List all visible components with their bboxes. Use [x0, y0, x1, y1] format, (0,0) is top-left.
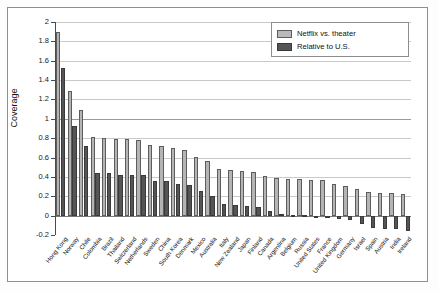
bar-netflix-vs-theater [125, 139, 129, 215]
legend-swatch-icon-dark [277, 43, 292, 51]
bar-relative-to-us [291, 215, 295, 217]
bar-netflix-vs-theater [102, 138, 106, 215]
bar-relative-to-us [360, 216, 364, 225]
bar-netflix-vs-theater [401, 194, 405, 215]
bar-relative-to-us [314, 216, 318, 218]
legend: Netflix vs. theater Relative to U.S. [271, 22, 409, 57]
legend-label: Relative to U.S. [297, 43, 350, 51]
bar-netflix-vs-theater [148, 145, 152, 216]
y-tick [51, 61, 55, 62]
bar-netflix-vs-theater [274, 178, 278, 216]
y-tick-label: -0.2 [36, 231, 49, 239]
bar-relative-to-us [325, 216, 329, 218]
y-tick [51, 177, 55, 178]
bar-relative-to-us [61, 68, 65, 216]
y-tick [51, 80, 55, 81]
y-tick [51, 22, 55, 23]
bar-relative-to-us [164, 181, 168, 216]
y-tick [51, 196, 55, 197]
bar-relative-to-us [268, 211, 272, 216]
bar-netflix-vs-theater [194, 157, 198, 216]
legend-item-relative-to-us: Relative to U.S. [277, 40, 403, 53]
y-axis-title: Coverage [9, 88, 19, 127]
y-tick [51, 216, 55, 217]
y-tick [51, 41, 55, 42]
y-tick-label: 0.2 [39, 193, 49, 201]
y-tick-label: 1.6 [39, 57, 49, 65]
y-axis-line [55, 22, 56, 235]
bar-netflix-vs-theater [171, 148, 175, 216]
y-tick-label: 0.8 [39, 134, 49, 142]
y-tick-label: 1 [45, 115, 49, 123]
bar-relative-to-us [107, 173, 111, 216]
bar-relative-to-us [233, 205, 237, 216]
y-tick [51, 158, 55, 159]
bar-netflix-vs-theater [378, 193, 382, 215]
bar-relative-to-us [279, 214, 283, 216]
bar-relative-to-us [153, 181, 157, 216]
bar-netflix-vs-theater [68, 91, 72, 216]
bar-relative-to-us [176, 184, 180, 216]
bar-relative-to-us [394, 216, 398, 230]
bar-netflix-vs-theater [217, 169, 221, 215]
bar-relative-to-us [210, 196, 214, 215]
bar-relative-to-us [245, 206, 249, 216]
bar-netflix-vs-theater [343, 186, 347, 216]
bar-relative-to-us [130, 175, 134, 216]
bar-netflix-vs-theater [91, 137, 95, 215]
bar-relative-to-us [187, 185, 191, 216]
y-tick [51, 119, 55, 120]
bar-relative-to-us [383, 216, 387, 230]
bar-relative-to-us [72, 126, 76, 216]
bar-relative-to-us [222, 204, 226, 216]
y-tick-label: 0.6 [39, 154, 49, 162]
y-tick-label: 2 [45, 18, 49, 26]
bar-relative-to-us [337, 216, 341, 220]
bar-netflix-vs-theater [297, 179, 301, 216]
bar-netflix-vs-theater [240, 171, 244, 216]
bar-relative-to-us [199, 191, 203, 215]
legend-item-netflix-vs-theater: Netflix vs. theater [277, 27, 403, 40]
bar-netflix-vs-theater [286, 179, 290, 216]
bar-netflix-vs-theater [205, 161, 209, 215]
y-tick-label: 0 [45, 212, 49, 220]
bar-netflix-vs-theater [355, 189, 359, 216]
bar-netflix-vs-theater [309, 180, 313, 216]
bar-netflix-vs-theater [263, 176, 267, 216]
bar-netflix-vs-theater [114, 139, 118, 215]
bar-relative-to-us [256, 207, 260, 216]
x-axis-labels: Hong KongNorwayChileColombiaBrazilThaila… [55, 236, 411, 288]
y-tick-label: 1.4 [39, 76, 49, 84]
legend-label: Netflix vs. theater [297, 30, 356, 38]
y-tick [51, 138, 55, 139]
figure-container: 21.81.61.41.210.80.60.40.20-0.2 Coverage… [0, 0, 439, 293]
bar-relative-to-us [95, 173, 99, 216]
y-tick-label: 1.8 [39, 38, 49, 46]
bar-netflix-vs-theater [159, 146, 163, 216]
bar-relative-to-us [141, 175, 145, 216]
bar-netflix-vs-theater [320, 180, 324, 216]
bar-netflix-vs-theater [136, 140, 140, 216]
bar-relative-to-us [348, 216, 352, 221]
bar-netflix-vs-theater [182, 150, 186, 216]
bar-netflix-vs-theater [251, 172, 255, 216]
bar-netflix-vs-theater [56, 32, 60, 216]
bar-relative-to-us [406, 216, 410, 231]
y-tick-label: 1.2 [39, 96, 49, 104]
legend-swatch-icon-light [277, 30, 292, 38]
bar-relative-to-us [302, 215, 306, 217]
bar-netflix-vs-theater [389, 193, 393, 215]
y-tick [51, 99, 55, 100]
bar-relative-to-us [118, 175, 122, 216]
bar-relative-to-us [84, 146, 88, 216]
bar-netflix-vs-theater [332, 184, 336, 216]
bar-netflix-vs-theater [79, 110, 83, 216]
bar-netflix-vs-theater [228, 170, 232, 216]
y-tick-label: 0.4 [39, 173, 49, 181]
bar-netflix-vs-theater [366, 192, 370, 215]
bar-relative-to-us [371, 216, 375, 229]
